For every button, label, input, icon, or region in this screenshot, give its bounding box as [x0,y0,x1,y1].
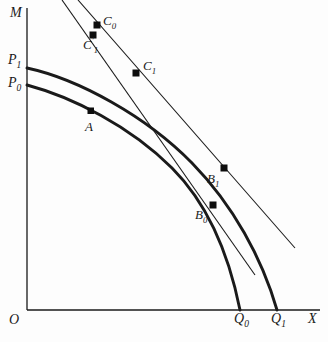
p1-letter: P [8,52,17,67]
point-label-a: A [85,120,93,133]
point-label-c0: C0 [103,14,116,30]
q0-intercept-label: Q0 [234,312,249,329]
m-axis-label: M [10,6,22,20]
point-label-c1: C1 [143,59,156,75]
q1-letter: Q [271,311,281,326]
c1-prime-subscript: 1 [94,45,98,55]
c1-prime-letter: C [83,37,92,52]
x-axis-label: X [308,312,317,326]
q1-subscript: 1 [281,319,286,329]
q0-letter: Q [234,311,244,326]
q1-intercept-label: Q1 [271,312,286,329]
p0-letter: P [8,75,17,90]
c0-subscript: 0 [112,21,116,31]
marker-c1 [133,70,140,77]
p0-subscript: 0 [17,83,22,93]
point-label-b0: B0 [195,208,207,224]
b1-letter: B [207,171,215,186]
c0-letter: C [103,13,112,28]
marker-a [88,108,95,115]
b0-subscript: 0 [203,215,207,225]
c1-subscript: 1 [152,66,156,76]
marker-b0 [210,202,217,209]
marker-b1 [221,165,228,172]
c1-letter: C [143,58,152,73]
p1-subscript: 1 [17,60,22,70]
q0-subscript: 0 [244,319,249,329]
marker-c0 [94,22,101,29]
frontier-curves-group [27,68,277,310]
frontier-curve-p1q1 [27,68,277,310]
frontier-curve-p0q0 [27,85,240,310]
point-label-b1: B1 [207,172,219,188]
b0-letter: B [195,207,203,222]
figure-canvas [0,0,328,342]
production-frontier-figure: M X O P1 P0 Q0 Q1 C0 C′1 C1 A B1 B0 [0,0,328,342]
b1-subscript: 1 [215,179,219,189]
price-line-1 [78,0,295,248]
point-label-c1-prime: C′1 [83,37,98,55]
origin-label: O [9,313,19,327]
p0-intercept-label: P0 [8,76,21,93]
p1-intercept-label: P1 [8,53,21,70]
